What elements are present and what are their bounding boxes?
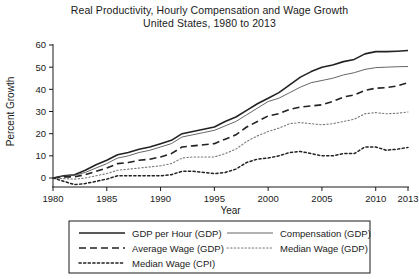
series-line [53,51,408,178]
legend-item-label: Median Wage (GDP) [280,243,368,254]
chart-subtitle: United States, 1980 to 2013 [0,17,419,30]
legend-item-label: Median Wage (CPI) [132,258,215,269]
x-tick-label: 2000 [258,193,279,204]
y-tick-label: 0 [41,172,46,183]
legend-item-label: Average Wage (GDP) [132,243,224,254]
x-tick-label: 1990 [150,193,171,204]
legend-item-label: GDP per Hour (GDP) [132,228,222,239]
series-line [53,147,408,185]
chart-title-block: Real Productivity, Hourly Compensation a… [0,4,419,30]
chart-legend: GDP per Hour (GDP)Compensation (GDP)Aver… [69,221,371,273]
chart-figure: Real Productivity, Hourly Compensation a… [0,0,419,279]
series-group [53,51,408,185]
x-tick-label: 2010 [365,193,386,204]
axes-group: 0102030405060198019851990199520002005201… [35,39,418,204]
x-axis-title: Year [220,205,241,216]
y-tick-label: 30 [35,106,46,117]
x-tick-label: 1985 [96,193,117,204]
y-tick-label: 60 [35,39,46,50]
y-tick-label: 40 [35,84,46,95]
chart-title: Real Productivity, Hourly Compensation a… [0,4,419,17]
y-axis-title: Percent Growth [5,77,16,146]
x-tick-label: 2013 [397,193,418,204]
x-axis-title-group: Year [220,205,241,216]
y-axis-title-group: Percent Growth [5,77,16,146]
series-line [53,112,408,179]
legend-item-label: Compensation (GDP) [280,228,371,239]
y-tick-label: 20 [35,128,46,139]
y-tick-label: 50 [35,62,46,73]
y-tick-label: 10 [35,150,46,161]
x-tick-label: 1980 [42,193,63,204]
x-tick-label: 1995 [204,193,225,204]
chart-plot-area: 0102030405060198019851990199520002005201… [0,0,419,279]
x-tick-label: 2005 [311,193,332,204]
